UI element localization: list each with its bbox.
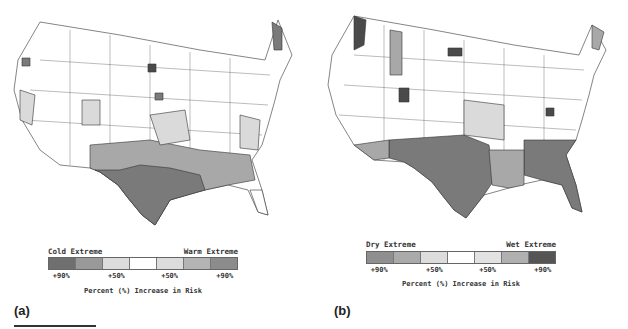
panel-a: Cold Extreme Warm Extreme +90% +50% +50%… — [0, 0, 314, 329]
legend-right-title: Warm Extreme — [184, 247, 238, 256]
swatch — [130, 258, 157, 269]
panel-b: Dry Extreme Wet Extreme +90% +50% +50% +… — [314, 0, 628, 329]
tick-label: +50% — [426, 266, 443, 274]
legend-right-title: Wet Extreme — [506, 240, 556, 249]
swatch — [76, 258, 103, 269]
color-scale — [48, 257, 238, 270]
swatch — [448, 252, 475, 263]
panel-label-a: (a) — [14, 303, 30, 318]
swatch — [211, 258, 237, 269]
color-scale — [366, 251, 556, 264]
tick-label: +50% — [108, 272, 125, 280]
legend-axis-label: Percent (%) Increase in Risk — [48, 287, 238, 295]
swatch — [475, 252, 502, 263]
swatch — [421, 252, 448, 263]
legend-axis-label: Percent (%) Increase in Risk — [366, 280, 556, 288]
legend-left-title: Dry Extreme — [366, 240, 416, 249]
tick-label: +90% — [216, 272, 233, 280]
us-climate-division-map-temperature — [0, 0, 314, 250]
tick-label: +90% — [53, 272, 70, 280]
us-climate-division-map-precipitation — [314, 0, 628, 240]
legend-b: Dry Extreme Wet Extreme +90% +50% +50% +… — [366, 240, 556, 295]
swatch — [367, 252, 394, 263]
tick-label: +90% — [534, 266, 551, 274]
legend-a: Cold Extreme Warm Extreme +90% +50% +50%… — [48, 247, 238, 302]
tick-label: +50% — [161, 272, 178, 280]
swatch — [49, 258, 76, 269]
swatch — [529, 252, 555, 263]
legend-left-title: Cold Extreme — [48, 247, 102, 256]
panel-label-b: (b) — [334, 303, 351, 318]
tick-label: +90% — [371, 266, 388, 274]
swatch — [103, 258, 130, 269]
swatch — [184, 258, 211, 269]
swatch — [394, 252, 421, 263]
swatch — [502, 252, 529, 263]
divider — [14, 325, 96, 327]
tick-label: +50% — [479, 266, 496, 274]
swatch — [157, 258, 184, 269]
